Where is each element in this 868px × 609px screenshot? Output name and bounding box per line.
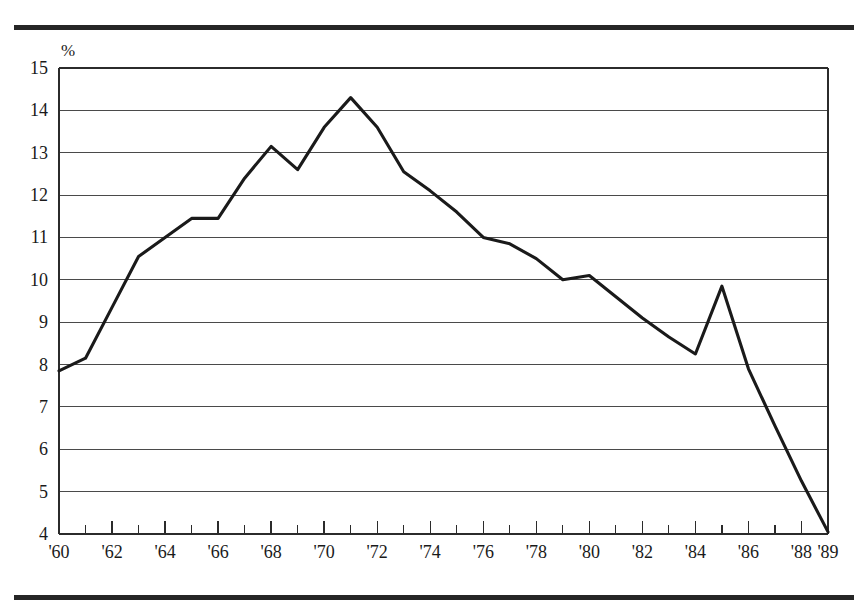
percent-unit-label: % <box>61 41 75 60</box>
y-tick-label: 14 <box>30 100 48 120</box>
x-tick-label: '78 <box>526 542 547 562</box>
x-tick-label: '76 <box>473 542 494 562</box>
y-tick-label: 8 <box>39 355 48 375</box>
x-tick-label: '74 <box>420 542 441 562</box>
x-axis-tick-labels: '60'62'64'66'68'70'72'74'76'78'80'82'84'… <box>48 542 838 562</box>
x-tick-label: '84 <box>685 542 706 562</box>
x-tick-label: '88 <box>791 542 812 562</box>
y-tick-label: 15 <box>30 58 48 78</box>
line-chart: 456789101112131415 '60'62'64'66'68'70'72… <box>0 0 868 609</box>
x-tick-label: '86 <box>738 542 759 562</box>
x-tick-label: '80 <box>579 542 600 562</box>
y-tick-label: 7 <box>39 397 48 417</box>
x-axis-ticks <box>59 521 828 534</box>
plot-frame <box>59 68 828 534</box>
x-tick-label: '70 <box>314 542 335 562</box>
x-tick-label: '68 <box>261 542 282 562</box>
y-tick-label: 13 <box>30 143 48 163</box>
x-tick-label: '62 <box>101 542 122 562</box>
x-tick-label: '72 <box>367 542 388 562</box>
x-tick-label: '60 <box>48 542 69 562</box>
y-tick-label: 10 <box>30 270 48 290</box>
data-series-line <box>59 98 828 532</box>
y-tick-label: 6 <box>39 439 48 459</box>
x-tick-label: '82 <box>632 542 653 562</box>
y-tick-label: 5 <box>39 482 48 502</box>
y-tick-label: 12 <box>30 185 48 205</box>
y-axis-tick-labels: 456789101112131415 <box>30 58 48 544</box>
y-tick-label: 4 <box>39 524 48 544</box>
chart-figure: 456789101112131415 '60'62'64'66'68'70'72… <box>0 0 868 609</box>
y-tick-label: 9 <box>39 312 48 332</box>
x-tick-label: '66 <box>207 542 228 562</box>
y-axis-unit-label: % <box>61 41 75 60</box>
x-tick-label: '64 <box>154 542 175 562</box>
y-tick-label: 11 <box>31 227 48 247</box>
gridlines <box>59 68 828 492</box>
x-tick-label: '89 <box>817 542 838 562</box>
